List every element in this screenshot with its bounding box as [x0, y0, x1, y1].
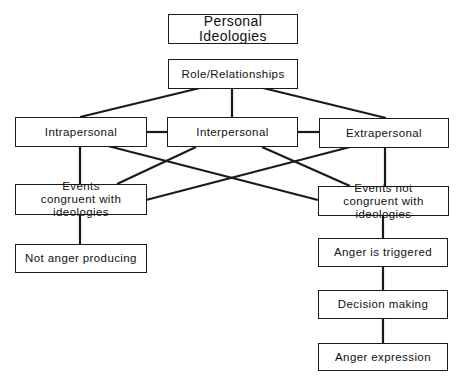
node-label: Intrapersonal [45, 126, 117, 139]
node-events-congruent: Events congruent with ideologies [15, 184, 147, 215]
node-role-relationships: Role/Relationships [168, 59, 298, 89]
node-intrapersonal: Intrapersonal [15, 117, 147, 147]
node-label: Decision making [338, 298, 428, 311]
node-anger-triggered: Anger is triggered [318, 238, 448, 267]
node-personal-ideologies: Personal Ideologies [168, 14, 298, 44]
node-not-anger-producing: Not anger producing [15, 244, 147, 273]
node-label: Extrapersonal [346, 127, 422, 140]
node-label: Events not congruent with ideologies [329, 182, 438, 221]
node-label: Events congruent with ideologies [34, 180, 128, 219]
node-label: Anger expression [335, 351, 431, 364]
node-label: Role/Relationships [181, 68, 284, 81]
node-interpersonal: Interpersonal [167, 117, 298, 147]
node-extrapersonal: Extrapersonal [319, 118, 449, 148]
node-label: Anger is triggered [334, 246, 432, 259]
node-label: Personal Ideologies [169, 14, 297, 44]
node-anger-expression: Anger expression [318, 343, 448, 371]
node-decision-making: Decision making [318, 290, 448, 319]
node-events-not-congruent: Events not congruent with ideologies [318, 186, 449, 216]
node-label: Interpersonal [196, 126, 268, 139]
node-label: Not anger producing [25, 252, 137, 265]
